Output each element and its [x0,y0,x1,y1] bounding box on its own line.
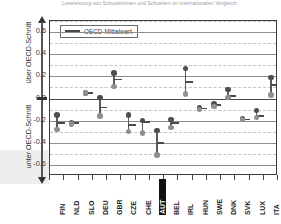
gridline [50,87,276,88]
x-axis-label-che: CHE [145,181,152,215]
x-axis-label-cze: CZE [130,181,137,215]
x-tick [249,175,250,180]
gridline [50,110,276,111]
marker-lower [211,104,217,110]
oecd-mean-tick [171,122,179,124]
marker-lower [268,92,274,98]
x-tick [120,175,121,180]
gridline [50,21,276,22]
x-axis-label-dnk: DNK [230,181,237,215]
marker-upper [225,87,231,93]
x-tick [234,175,235,180]
oecd-mean-tick [100,107,108,109]
zero-line [50,99,276,101]
oecd-mean-tick [271,84,277,86]
x-axis-label-deu: DEU [102,181,109,215]
x-tick [206,175,207,180]
marker-upper [111,70,117,76]
gridline [50,132,276,133]
x-axis-label-aut: AUT [159,179,166,215]
x-tick [135,175,136,180]
x-axis-label-bel: BEL [173,181,180,215]
marker-upper [54,112,60,118]
oecd-mean-tick [157,142,165,144]
marker-lower [183,91,189,97]
x-axis-label-irl: IRL [187,181,194,215]
x-axis-label-hun: HUN [202,181,209,215]
marker-lower [111,84,117,90]
marker-lower [140,130,146,136]
marker-lower [225,95,231,101]
y-tick-label: 0.0 [24,94,46,102]
x-tick [92,175,93,180]
marker-lower [254,115,260,121]
marker-upper [268,75,274,81]
y-tick-label: -0.6 [24,160,46,168]
marker-upper [183,66,189,72]
gridline [50,165,276,166]
x-tick [192,175,193,180]
gridline [50,54,276,55]
marker-upper [97,95,103,101]
plot-area: OECD-Mittelwert [49,20,277,175]
x-tick [220,175,221,180]
y-tick-label: 0.6 [24,27,46,35]
footer-strip [0,217,281,224]
gridline [50,76,276,77]
gridline [50,32,276,33]
x-axis-label-svk: SVK [244,181,251,215]
oecd-mean-tick [114,79,122,81]
x-tick [149,175,150,180]
x-tick [63,175,64,180]
marker-lower [154,152,160,158]
marker-lower [97,113,103,119]
x-axis-label-gbr: GBR [116,181,123,215]
figure-title: Leseleistung von Schuelerinnen und Schue… [62,0,276,6]
x-axis-label-nld: NLD [73,181,80,215]
y-tick-label: 0.2 [24,71,46,79]
x-tick [106,175,107,180]
gridline [50,65,276,66]
x-tick [277,175,278,180]
chart-figure: Leseleistung von Schuelerinnen und Schue… [0,0,281,224]
y-axis-tick-labels: 0.60.40.20.0-0.2-0.4-0.6 [22,0,46,224]
x-axis-labels: FINNLDSLODEUGBRCZECHEAUTBELIRLHUNSWEDNKS… [49,181,277,221]
y-tick-label: -0.2 [24,116,46,124]
marker-lower [126,129,132,135]
marker-lower [54,127,60,133]
oecd-mean-tick [128,124,136,126]
x-axis-label-swe: SWE [216,181,223,215]
x-axis-label-fin: FIN [59,181,66,215]
marker-lower [83,90,89,96]
x-axis-label-ita: ITA [273,181,280,215]
marker-lower [168,125,174,131]
x-tick [177,175,178,180]
marker-upper [168,117,174,123]
x-tick [263,175,264,180]
x-tick [49,175,50,180]
marker-lower [197,107,203,113]
oecd-mean-tick [185,81,193,83]
marker-upper [126,112,132,118]
x-axis-label-slo: SLO [88,181,95,215]
x-tick [78,175,79,180]
marker-upper [154,128,160,134]
y-tick-label: -0.4 [24,138,46,146]
gridline [50,154,276,155]
gridline [50,43,276,44]
x-axis-label-lux: LUX [259,181,266,215]
marker-upper [254,108,260,114]
oecd-mean-tick [57,122,65,124]
marker-lower [69,121,75,127]
y-tick-label: 0.4 [24,49,46,57]
